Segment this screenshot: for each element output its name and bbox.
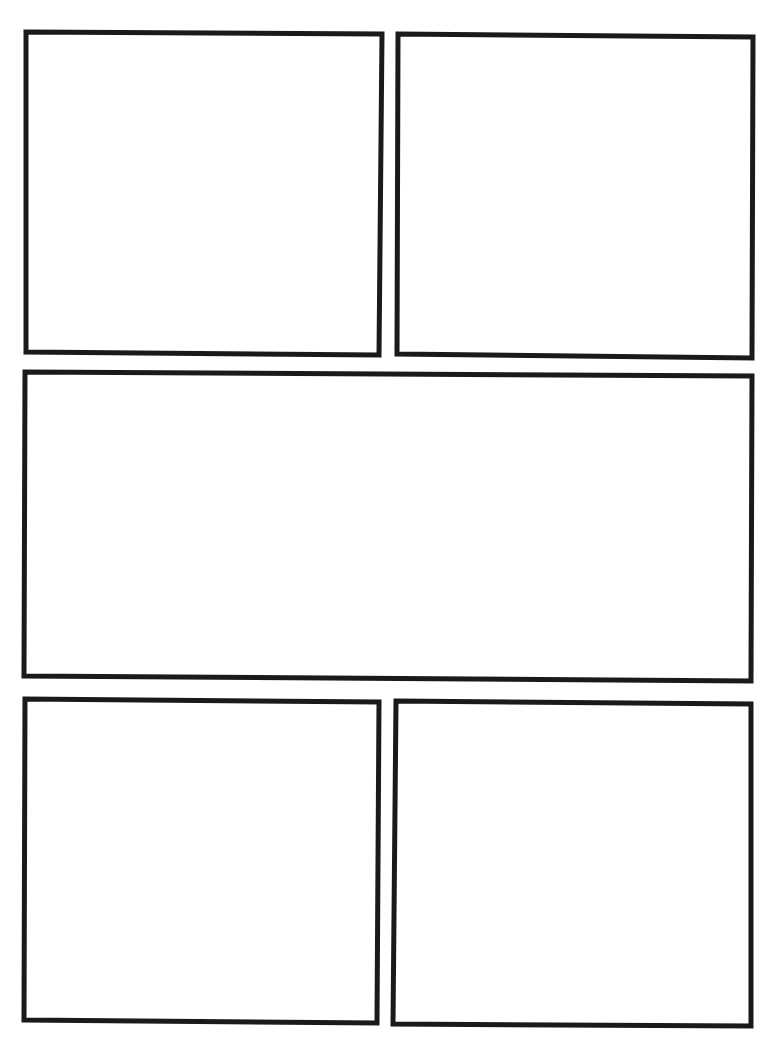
panel-5 [393,701,751,1026]
panel-2 [397,34,753,358]
comic-page [0,0,764,1059]
panel-1 [26,32,382,355]
panel-4 [24,699,379,1023]
panel-3-wide [24,372,752,681]
